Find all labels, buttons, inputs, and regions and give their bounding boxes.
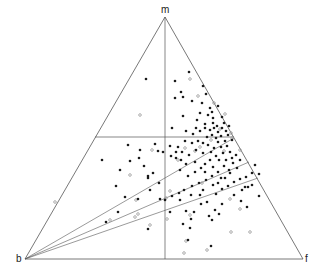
data-point-filled — [185, 210, 188, 213]
data-point-filled — [200, 167, 203, 170]
data-point-filled — [208, 215, 211, 218]
data-point-filled — [217, 182, 220, 185]
data-point-filled — [190, 194, 193, 197]
data-point-filled — [149, 189, 152, 192]
data-point-filled — [231, 157, 234, 160]
data-point-open — [229, 198, 232, 201]
data-point-filled — [105, 221, 108, 224]
data-point-filled — [179, 169, 182, 172]
data-point-filled — [240, 200, 243, 203]
data-point-filled — [258, 173, 261, 176]
data-point-filled — [187, 239, 190, 242]
data-point-filled — [169, 145, 172, 148]
data-point-filled — [211, 134, 214, 137]
data-point-filled — [195, 149, 198, 152]
data-point-filled — [139, 149, 142, 152]
data-point-filled — [200, 203, 203, 206]
data-point-open — [149, 224, 152, 227]
data-point-filled — [157, 150, 160, 153]
data-point-filled — [119, 169, 122, 172]
data-point-filled — [202, 189, 205, 192]
data-point-filled — [199, 112, 202, 115]
data-point-filled — [245, 176, 248, 179]
triangle-outline — [25, 17, 303, 259]
data-point-filled — [227, 134, 230, 137]
data-point-open — [129, 174, 132, 177]
data-point-filled — [210, 151, 213, 154]
data-point-filled — [159, 198, 162, 201]
data-point-filled — [226, 145, 229, 148]
data-point-filled — [210, 245, 213, 248]
data-point-filled — [220, 177, 223, 180]
data-point-filled — [224, 140, 227, 143]
data-point-filled — [217, 141, 220, 144]
data-point-filled — [215, 137, 218, 140]
data-point-filled — [225, 159, 228, 162]
data-point-filled — [218, 213, 221, 216]
data-point-filled — [213, 147, 216, 150]
data-point-open — [169, 190, 172, 193]
data-point-filled — [212, 184, 215, 187]
data-point-open — [239, 208, 242, 211]
data-point-filled — [175, 151, 178, 154]
data-point-filled — [185, 130, 188, 133]
data-point-filled — [202, 142, 205, 145]
data-point-filled — [209, 129, 212, 132]
data-point-filled — [223, 165, 226, 168]
data-point-filled — [180, 91, 183, 94]
data-point-filled — [197, 140, 200, 143]
data-point-filled — [182, 115, 185, 118]
data-point-filled — [216, 125, 219, 128]
data-point-filled — [232, 162, 235, 165]
data-point-filled — [228, 169, 231, 172]
data-point-open — [177, 159, 180, 162]
data-point-filled — [138, 157, 141, 160]
data-point-filled — [204, 171, 207, 174]
data-point-filled — [225, 130, 228, 133]
data-point-filled — [217, 131, 220, 134]
data-point-filled — [251, 172, 254, 175]
data-point-filled — [204, 127, 207, 130]
data-point-filled — [241, 189, 244, 192]
data-point-open — [189, 78, 192, 81]
data-point-filled — [182, 96, 185, 99]
data-point-filled — [211, 219, 214, 222]
data-point-filled — [206, 201, 209, 204]
data-point-open — [206, 249, 209, 252]
data-point-filled — [194, 171, 197, 174]
data-point-filled — [214, 209, 217, 212]
data-point-open — [166, 218, 169, 221]
data-point-filled — [217, 171, 220, 174]
data-point-filled — [187, 175, 190, 178]
data-point-filled — [189, 227, 192, 230]
data-point-filled — [188, 71, 191, 74]
data-point-filled — [254, 164, 257, 167]
data-point-filled — [207, 144, 210, 147]
vertex-label-f: f — [305, 253, 308, 264]
data-point-filled — [190, 218, 193, 221]
data-point-filled — [117, 211, 120, 214]
data-point-filled — [207, 114, 210, 117]
data-point-filled — [228, 125, 231, 128]
data-point-filled — [175, 157, 178, 160]
fan-line — [25, 178, 258, 259]
data-point-filled — [179, 199, 182, 202]
data-point-filled — [220, 135, 223, 138]
data-point-open — [210, 139, 213, 142]
data-point-filled — [194, 161, 197, 164]
data-point-filled — [220, 146, 223, 149]
data-point-filled — [196, 119, 199, 122]
data-point-filled — [221, 127, 224, 130]
vertex-label-b: b — [16, 253, 22, 264]
data-point-filled — [124, 196, 127, 199]
data-point-open — [184, 147, 187, 150]
data-point-filled — [174, 80, 177, 83]
data-point-filled — [143, 165, 146, 168]
data-point-filled — [170, 155, 173, 158]
data-point-filled — [202, 85, 205, 88]
data-point-filled — [174, 97, 177, 100]
data-point-open — [201, 182, 204, 185]
data-point-filled — [251, 184, 254, 187]
data-point-filled — [199, 130, 202, 133]
data-point-open — [239, 149, 242, 152]
